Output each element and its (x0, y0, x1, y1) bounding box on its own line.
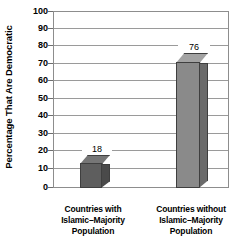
category-label-1: Countries with Islamic–Majority Populati… (47, 204, 139, 237)
y-tick-label-80: 80 (20, 41, 48, 50)
gridline-90 (54, 28, 228, 29)
bar-front-face (80, 163, 102, 188)
category-label-2-line2: Islamic–Majority (141, 215, 241, 226)
category-label-1-line3: Population (47, 226, 139, 237)
category-label-2-line1: Countries without (141, 204, 241, 215)
y-tick-label-10: 10 (20, 164, 48, 173)
y-tick-label-50: 50 (20, 94, 48, 103)
y-tick-label-0: 0 (20, 183, 48, 192)
bar-front-face (176, 62, 200, 188)
y-tick-label-40: 40 (20, 111, 48, 120)
y-tick-label-30: 30 (20, 129, 48, 138)
bar-chart: Percentage That Are Democratic 100 90 80… (0, 0, 247, 245)
bar-value-label-2: 76 (178, 42, 210, 52)
y-tick-label-90: 90 (20, 24, 48, 33)
bar-countries-without-islamic-majority[interactable] (176, 53, 208, 188)
y-tick-label-70: 70 (20, 59, 48, 68)
category-label-1-line2: Islamic–Majority (47, 215, 139, 226)
y-tick-label-60: 60 (20, 76, 48, 85)
bar-side-face (199, 63, 208, 188)
bar-countries-with-islamic-majority[interactable] (80, 155, 110, 188)
category-label-2: Countries without Islamic–Majority Popul… (141, 204, 241, 237)
category-label-2-line3: Population (141, 226, 241, 237)
y-tick-label-100: 100 (20, 7, 48, 16)
bar-side-face (101, 164, 110, 188)
y-tick-label-20: 20 (20, 146, 48, 155)
category-label-1-line1: Countries with (47, 204, 139, 215)
bar-value-label-1: 18 (82, 144, 112, 154)
